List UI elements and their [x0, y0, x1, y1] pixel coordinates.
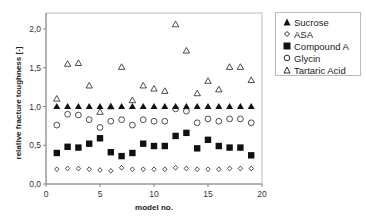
data-points [53, 21, 254, 173]
series-glycin [54, 106, 254, 130]
y-axis-title: relative fracture toughness [-] [14, 46, 23, 159]
data-point [162, 88, 168, 94]
data-point [119, 165, 123, 170]
data-point [129, 97, 135, 103]
legend-label: Compound A [294, 41, 349, 52]
data-point [184, 166, 188, 171]
data-point [130, 167, 134, 172]
data-point [248, 120, 254, 126]
series-asa [55, 165, 254, 173]
data-point [163, 167, 167, 172]
legend-label: Sucrose [294, 17, 329, 28]
data-point [75, 103, 82, 109]
legend-item-glycin: Glycin [282, 52, 360, 64]
data-point [205, 116, 211, 122]
data-point [54, 96, 60, 102]
data-point [86, 82, 92, 88]
data-point [119, 117, 125, 123]
data-point [109, 168, 113, 173]
data-point [195, 167, 199, 172]
data-point [226, 103, 233, 109]
data-point [238, 116, 244, 122]
data-point [217, 167, 221, 172]
data-point [248, 103, 255, 109]
data-point [97, 109, 103, 115]
data-point [86, 117, 92, 123]
data-point [248, 77, 254, 83]
data-point [249, 166, 253, 171]
data-point [205, 78, 211, 84]
series-tartaric-acid [54, 21, 255, 114]
data-point [140, 141, 146, 147]
legend-item-tartaric-acid: Tartaric Acid [282, 64, 360, 76]
data-point [194, 145, 200, 151]
data-point [130, 122, 136, 128]
data-point [227, 116, 233, 122]
data-point [194, 103, 201, 109]
data-point [151, 118, 157, 124]
data-point [129, 103, 136, 109]
data-point [118, 64, 124, 70]
legend-item-sucrose: Sucrose [282, 16, 360, 28]
data-point [86, 103, 93, 109]
data-point [97, 135, 103, 141]
open-diamond-icon [282, 29, 292, 39]
y-tick-label: 2,0 [29, 24, 41, 34]
data-point [237, 64, 243, 70]
data-point [108, 118, 114, 124]
data-point [75, 144, 81, 150]
data-point [140, 82, 146, 88]
data-point [183, 130, 189, 136]
data-point [141, 167, 145, 172]
x-tick-label: 15 [203, 189, 213, 199]
data-point [237, 103, 244, 109]
data-point [152, 167, 156, 172]
data-point [227, 166, 231, 171]
x-tick-label: 5 [98, 189, 103, 199]
data-point [64, 144, 70, 150]
data-point [151, 103, 158, 109]
data-point [140, 117, 146, 123]
legend-label: Tartaric Acid [294, 65, 346, 76]
data-point [64, 61, 70, 67]
filled-square-icon [282, 41, 292, 51]
data-point [238, 166, 242, 171]
data-point [64, 103, 71, 109]
data-point [129, 150, 135, 156]
data-point [76, 112, 82, 118]
x-tick-label: 20 [257, 189, 267, 199]
data-point [118, 103, 125, 109]
data-point [162, 143, 168, 149]
series-sucrose [53, 103, 254, 109]
data-point [86, 141, 92, 147]
data-point [172, 21, 178, 27]
data-point [194, 120, 200, 126]
data-point [140, 103, 147, 109]
data-point [76, 166, 80, 171]
legend-item-compound-a: Compound A [282, 40, 360, 52]
data-point [53, 103, 60, 109]
data-point [151, 143, 157, 149]
data-point [226, 64, 232, 70]
data-point [206, 167, 210, 172]
x-tick-label: 0 [44, 189, 49, 199]
y-tick-label: 1,5 [29, 63, 41, 73]
data-point [65, 166, 69, 171]
data-point [216, 118, 222, 124]
data-point [248, 152, 254, 158]
data-point [215, 103, 222, 109]
data-point [98, 168, 102, 173]
open-circle-icon [282, 53, 292, 63]
data-point [108, 149, 114, 155]
data-point [162, 118, 168, 124]
data-point [55, 167, 59, 172]
legend-label: ASA [294, 29, 313, 40]
data-point [173, 165, 177, 170]
data-point [184, 108, 190, 114]
series-compound-a [54, 130, 255, 160]
plot-frame [46, 13, 262, 184]
x-axis-title: model no. [135, 203, 173, 212]
data-point [172, 133, 178, 139]
data-point [151, 85, 157, 91]
data-point [205, 137, 211, 143]
